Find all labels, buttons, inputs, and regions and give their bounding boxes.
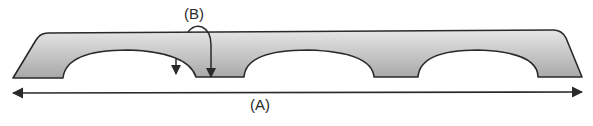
beam-shape [13, 30, 582, 78]
label-b: (B) [184, 5, 204, 22]
label-a: (A) [250, 96, 270, 113]
diagram-canvas [0, 0, 593, 126]
dimension-arrow-a [13, 92, 582, 93]
